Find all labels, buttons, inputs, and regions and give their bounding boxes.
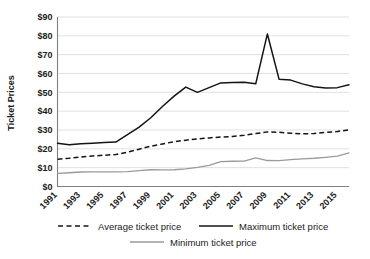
x-axis-tick-labels: 1991199319951997199920012003200520072009… xyxy=(38,190,339,211)
y-axis-tick-label: $10 xyxy=(37,163,52,173)
x-axis-tick-label: 2003 xyxy=(178,190,199,211)
x-axis-tick-label: 2005 xyxy=(201,190,222,211)
y-axis-tick-label: $20 xyxy=(37,144,52,154)
y-axis-tick-label: $80 xyxy=(37,31,52,41)
legend-label-maximum-ticket-price: Maximum ticket price xyxy=(239,221,328,232)
x-axis-tick-label: 1997 xyxy=(108,190,129,211)
y-axis-tick-label: $90 xyxy=(37,12,52,22)
y-axis-tick-labels: $0$10$20$30$40$50$60$70$80$90 xyxy=(37,12,52,192)
x-axis-tick-label: 2007 xyxy=(224,190,245,211)
x-axis-tick-label: 1993 xyxy=(61,190,82,211)
series-line-maximum-ticket-price xyxy=(58,34,350,145)
legend-label-average-ticket-price: Average ticket price xyxy=(98,221,181,232)
series-line-average-ticket-price xyxy=(58,130,350,159)
x-axis-tick-label: 1999 xyxy=(131,190,152,211)
x-axis-tick-label: 2009 xyxy=(248,190,269,211)
chart-canvas: $0$10$20$30$40$50$60$70$80$90 1991199319… xyxy=(0,0,370,259)
x-axis-tick-label: 2011 xyxy=(271,190,292,211)
x-axis-tick-label: 2001 xyxy=(154,190,175,211)
x-axis-tick-label: 2013 xyxy=(294,190,315,211)
gridlines-group xyxy=(58,17,350,168)
y-axis-tick-label: $30 xyxy=(37,125,52,135)
legend-label-minimum-ticket-price: Minimum ticket price xyxy=(170,237,257,248)
line-chart: $0$10$20$30$40$50$60$70$80$90 1991199319… xyxy=(0,0,370,259)
x-axis-tick-label: 2015 xyxy=(318,190,339,211)
x-axis-tick-label: 1991 xyxy=(38,190,59,211)
y-axis-tick-label: $50 xyxy=(37,88,52,98)
y-axis-tick-label: $40 xyxy=(37,106,52,116)
y-axis-tick-label: $60 xyxy=(37,69,52,79)
y-axis-title: Ticket Prices xyxy=(6,75,16,130)
y-axis-tick-label: $70 xyxy=(37,50,52,60)
legend: Average ticket price Maximum ticket pric… xyxy=(58,221,328,248)
x-axis-tick-label: 1995 xyxy=(84,190,105,211)
